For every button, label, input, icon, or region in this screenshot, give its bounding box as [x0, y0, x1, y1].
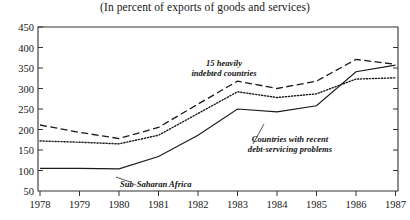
- plot-frame: [38, 27, 398, 191]
- series-line-sub-saharan-africa: [40, 65, 396, 169]
- x-tick-label-1981: 1981: [148, 199, 169, 210]
- annotation-debt-servicing-line2: debt-servicing problems: [248, 144, 333, 154]
- x-tick-label-1985: 1985: [306, 199, 327, 210]
- annotation-indebted-countries: 15 heavily indebted countries: [191, 58, 257, 78]
- y-tick-label-200: 200: [18, 125, 34, 136]
- x-tick-label-1980: 1980: [109, 199, 130, 210]
- y-tick-label-400: 400: [18, 43, 34, 54]
- x-tick-label-1986: 1986: [346, 199, 367, 210]
- annotation-sub-saharan-line1: Sub-Saharan Africa: [120, 179, 192, 189]
- y-tick-label-50: 50: [24, 186, 35, 197]
- y-axis-tick-labels: 450 400 350 300 250 200 150 100 50: [18, 22, 34, 197]
- x-axis-ticks: [40, 191, 396, 196]
- x-tick-label-1987: 1987: [385, 199, 406, 210]
- annotation-debt-servicing-line1: Countries with recent: [252, 134, 329, 144]
- y-tick-label-150: 150: [18, 145, 34, 156]
- x-tick-label-1983: 1983: [227, 199, 248, 210]
- y-tick-label-300: 300: [18, 84, 34, 95]
- x-tick-label-1982: 1982: [188, 199, 209, 210]
- y-axis-ticks: [38, 27, 398, 171]
- x-axis-tick-labels: 1978 1979 1980 1981 1982 1983 1984 1985 …: [30, 199, 407, 210]
- x-tick-label-1978: 1978: [30, 199, 51, 210]
- x-tick-label-1979: 1979: [69, 199, 90, 210]
- chart-figure: (In percent of exports of goods and serv…: [0, 0, 410, 220]
- y-tick-label-350: 350: [18, 63, 34, 74]
- y-tick-label-100: 100: [18, 166, 34, 177]
- x-tick-label-1984: 1984: [267, 199, 289, 210]
- line-chart-plot: 450 400 350 300 250 200 150 100 50 1978 …: [0, 0, 410, 220]
- y-tick-label-250: 250: [18, 104, 34, 115]
- annotation-sub-saharan-africa: Sub-Saharan Africa: [120, 179, 192, 189]
- annotation-indebted-line1: 15 heavily: [206, 58, 242, 68]
- annotation-debt-servicing-problems: Countries with recent debt-servicing pro…: [248, 134, 333, 154]
- annotation-indebted-line2: indebted countries: [191, 68, 257, 78]
- y-tick-label-450: 450: [18, 22, 34, 33]
